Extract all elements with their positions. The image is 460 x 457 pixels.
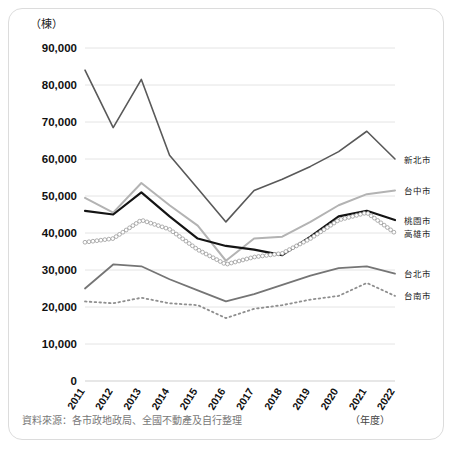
series-marker-高雄市 [347,215,351,219]
legend-label-高雄市: 高雄市 [404,229,431,239]
x-axis-tick-label: 2021 [346,386,369,412]
series-marker-高雄市 [226,262,230,266]
legend-label-新北市: 新北市 [404,155,431,165]
x-axis-tick-label: 2014 [149,386,172,412]
series-marker-高雄市 [99,238,103,242]
x-axis-tick-label: 2018 [261,386,284,412]
y-axis-tick-label: 0 [71,375,77,387]
series-marker-高雄市 [237,259,241,263]
legend-label-桃園市: 桃園市 [404,216,431,226]
series-marker-高雄市 [145,220,149,224]
series-marker-高雄市 [164,226,168,230]
series-marker-高雄市 [359,212,363,216]
series-marker-高雄市 [276,252,280,256]
series-marker-高雄市 [141,219,145,223]
series-marker-高雄市 [103,238,107,242]
y-axis-unit-label: （棟） [30,17,63,30]
series-marker-高雄市 [272,252,276,256]
series-marker-高雄市 [362,211,366,215]
x-axis-tick-label: 2020 [318,386,341,412]
chart-canvas: 010,00020,00030,00040,00050,00060,00070,… [0,0,460,457]
series-marker-高雄市 [351,214,355,218]
series-marker-高雄市 [269,253,273,257]
series-marker-高雄市 [249,256,253,260]
series-marker-高雄市 [241,258,245,262]
series-line-台南市 [85,283,395,318]
y-axis-tick-label: 70,000 [42,116,77,128]
series-marker-高雄市 [149,221,153,225]
series-marker-高雄市 [233,260,237,264]
series-marker-高雄市 [153,222,157,226]
y-axis-tick-label: 80,000 [42,79,77,91]
series-marker-高雄市 [355,213,359,217]
series-marker-高雄市 [160,225,164,229]
y-axis-tick-label: 50,000 [42,190,77,202]
source-note: 資料來源：各市政地政局、全國不動產及自行整理 [22,414,242,426]
series-marker-高雄市 [95,239,99,243]
series-marker-高雄市 [335,219,339,223]
x-axis-tick-label: 2017 [233,386,256,412]
series-marker-高雄市 [138,219,142,223]
series-marker-高雄市 [257,255,261,259]
series-marker-高雄市 [83,240,87,244]
y-axis-tick-label: 10,000 [42,338,77,350]
x-axis-tick-label: 2016 [205,386,228,412]
y-axis-tick-label: 40,000 [42,227,77,239]
x-axis-tick-label: 2011 [64,386,86,412]
legend-label-台北市: 台北市 [404,269,431,279]
y-axis-tick-label: 30,000 [42,264,77,276]
series-line-高雄市 [85,213,395,265]
series-marker-高雄市 [91,239,95,243]
series-marker-高雄市 [87,240,91,244]
series-marker-高雄市 [229,261,233,265]
line-chart: 010,00020,00030,00040,00050,00060,00070,… [0,0,460,457]
y-axis-tick-label: 60,000 [42,153,77,165]
series-marker-高雄市 [222,261,226,265]
x-axis-tick-label: 2022 [374,386,397,412]
series-marker-高雄市 [265,254,269,258]
x-axis-tick-label: 2013 [121,386,144,412]
series-marker-高雄市 [392,230,396,234]
series-marker-高雄市 [261,254,265,258]
x-axis-tick-label: 2015 [177,386,200,412]
series-marker-高雄市 [253,255,257,259]
series-marker-高雄市 [245,257,249,261]
series-marker-高雄市 [339,218,343,222]
x-axis-unit-label: （年度） [350,414,390,426]
x-axis-tick-label: 2012 [92,386,115,412]
series-line-台中市 [85,183,395,261]
x-axis-tick-label: 2019 [290,386,313,412]
legend-label-台中市: 台中市 [404,186,431,196]
series-marker-高雄市 [107,237,111,241]
legend-label-台南市: 台南市 [404,291,431,301]
y-axis-tick-label: 90,000 [42,42,77,54]
series-marker-高雄市 [343,217,347,221]
series-marker-高雄市 [156,224,160,228]
y-axis-tick-label: 20,000 [42,301,77,313]
